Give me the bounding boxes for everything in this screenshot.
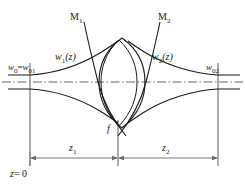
distance-z1-label: z1	[69, 143, 76, 156]
left-waist-label: w0=w01	[8, 63, 36, 75]
diagram-canvas	[0, 0, 245, 187]
beam2-label: w2(z)	[152, 52, 173, 65]
central-waist-inner-right-curve	[119, 40, 137, 126]
dimension-arrow-right-end	[212, 156, 218, 161]
origin-label: z= 0	[10, 169, 27, 179]
dimension-arrow-left-end	[112, 156, 118, 161]
mirror1-label: M1	[70, 12, 82, 25]
dimension-arrow-right-start	[118, 156, 124, 161]
mirror2-label: M2	[158, 12, 170, 25]
central-waist-right-curve	[122, 38, 145, 128]
focus-label: f	[107, 124, 110, 134]
beam1-label: w1(z)	[55, 52, 76, 65]
beam2-lower-envelope	[128, 89, 240, 123]
optical-beam-diagram: M1 M2 w1(z) w2(z) w0=w01 w02 f z1 z2 z= …	[0, 0, 245, 187]
distance-z2-label: z2	[162, 143, 169, 156]
dimension-arrow-left-start	[30, 156, 36, 161]
beam2-upper-envelope	[128, 41, 240, 75]
right-waist-label: w02	[206, 63, 219, 75]
